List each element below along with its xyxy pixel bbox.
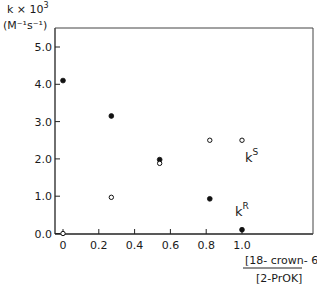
x-tick-label: 0 [60, 239, 67, 252]
x-tick-label: 0.4 [126, 239, 144, 252]
y-axis-title: k × 103 (M⁻¹s⁻¹) [3, 1, 49, 32]
data-point-ks [61, 231, 65, 235]
y-axis-title-line2: (M⁻¹s⁻¹) [3, 19, 47, 32]
y-axis-ticks: 0.01.02.03.04.05.0 [35, 41, 61, 241]
x-axis-title-numerator: [18- crown- 6] [245, 254, 317, 267]
x-tick-label: 0.2 [90, 239, 108, 252]
series-label-kr: kR [235, 201, 249, 219]
series-label-ks: kS [245, 147, 259, 165]
x-axis-title: [18- crown- 6] [2-PrOK] [243, 254, 317, 285]
x-tick-label: 1.0 [233, 239, 251, 252]
y-tick-label: 0.0 [35, 228, 53, 241]
y-tick-label: 3.0 [35, 116, 53, 129]
y-axis-title-line1: k × 103 [7, 1, 49, 16]
x-tick-label: 0.8 [197, 239, 215, 252]
data-point-kr [240, 227, 245, 232]
data-point-ks [109, 195, 113, 199]
y-tick-label: 5.0 [35, 41, 53, 54]
data-points [61, 78, 245, 236]
data-point-kr [61, 78, 66, 83]
data-point-ks [240, 138, 244, 142]
plot-frame [55, 28, 313, 234]
data-point-kr [109, 114, 114, 119]
x-axis-title-denominator: [2-PrOK] [256, 272, 302, 285]
data-point-kr [207, 196, 212, 201]
x-tick-label: 0.6 [162, 239, 180, 252]
scatter-chart: 0.01.02.03.04.05.0 00.20.40.60.81.0 k × … [0, 0, 317, 288]
data-point-ks [157, 161, 161, 165]
y-tick-label: 2.0 [35, 153, 53, 166]
x-axis-ticks: 00.20.40.60.81.0 [60, 229, 251, 252]
y-tick-label: 1.0 [35, 190, 53, 203]
y-tick-label: 4.0 [35, 78, 53, 91]
data-point-ks [208, 138, 212, 142]
